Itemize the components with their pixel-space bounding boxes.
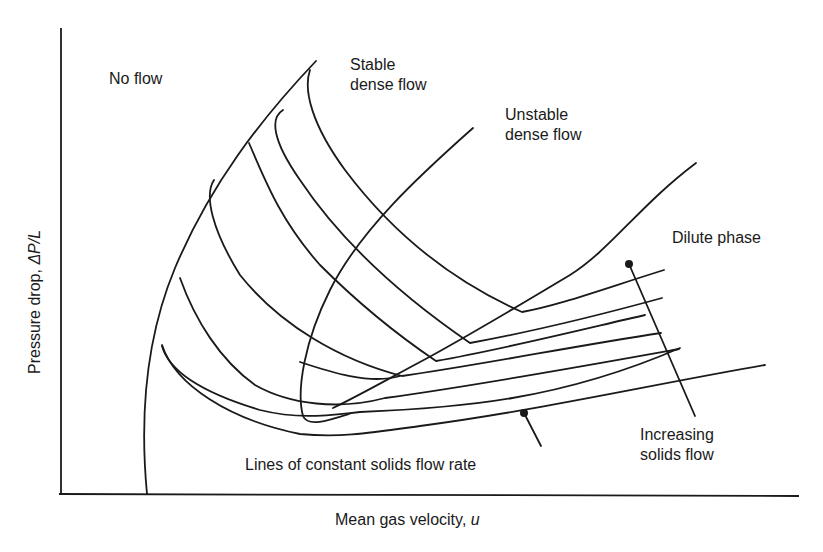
no-flow-boundary-curve bbox=[144, 61, 316, 494]
constant-solids-lines-label: Lines of constant solids flow rate bbox=[245, 456, 476, 473]
pneumatic-conveying-state-diagram: No flow Stable dense flow Unstable dense… bbox=[0, 0, 823, 552]
no-flow-label: No flow bbox=[109, 70, 163, 87]
unstable-dense-flow-label-line2: dense flow bbox=[505, 126, 582, 143]
dilute-phase-label: Dilute phase bbox=[672, 229, 761, 246]
constant-solids-line-7 bbox=[162, 345, 765, 435]
x-axis-label: Mean gas velocity, u bbox=[335, 511, 480, 528]
x-axis bbox=[59, 494, 799, 496]
constant-solids-line-5 bbox=[180, 278, 679, 404]
constant-solids-line-2 bbox=[275, 110, 662, 343]
x-axis-label-text: Mean gas velocity, bbox=[335, 511, 471, 528]
increasing-solids-label-line1: Increasing bbox=[640, 426, 714, 443]
constant-solids-line-4 bbox=[210, 180, 661, 376]
y-axis-label-text: Pressure drop, bbox=[26, 265, 43, 374]
y-axis-label: Pressure drop, ΔP/L bbox=[26, 230, 43, 374]
unstable-dense-flow-label-line1: Unstable bbox=[505, 106, 568, 123]
constant-solids-line-3 bbox=[249, 143, 645, 361]
x-axis-symbol: u bbox=[471, 511, 480, 528]
y-axis-symbol: ΔP/L bbox=[26, 230, 43, 266]
stable-dense-flow-label-line1: Stable bbox=[350, 56, 395, 73]
increasing-solids-label-line2: solids flow bbox=[640, 446, 714, 463]
constant-solids-pointer-line bbox=[524, 413, 541, 446]
constant-solids-line-6 bbox=[162, 346, 680, 416]
stable-dense-flow-label-line2: dense flow bbox=[350, 76, 427, 93]
constant-solids-line-1 bbox=[308, 70, 664, 312]
increasing-solids-indicator-line bbox=[629, 264, 695, 416]
